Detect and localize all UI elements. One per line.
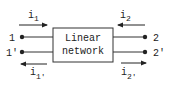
two-port-network-diagram: Linear network 1 1' 2 2' i1 i1' i2 i2' [0,0,173,88]
box-label-line2: network [62,46,104,57]
current-i1-label: i1 [28,10,39,23]
terminal-2-label: 2 [153,33,159,44]
terminal-2-dot [143,35,147,39]
current-i2p-label: i2' [121,67,137,81]
terminal-1p-dot [20,50,24,54]
terminal-1p-label: 1' [6,48,18,59]
terminal-1-dot [20,35,24,39]
terminal-2p-dot [143,50,147,54]
terminal-1-label: 1 [9,33,15,44]
box-label-line1: Linear [65,33,101,44]
current-i2-label: i2 [120,10,131,23]
terminal-2p-label: 2' [153,48,165,59]
current-i1p-label: i1' [30,67,46,81]
